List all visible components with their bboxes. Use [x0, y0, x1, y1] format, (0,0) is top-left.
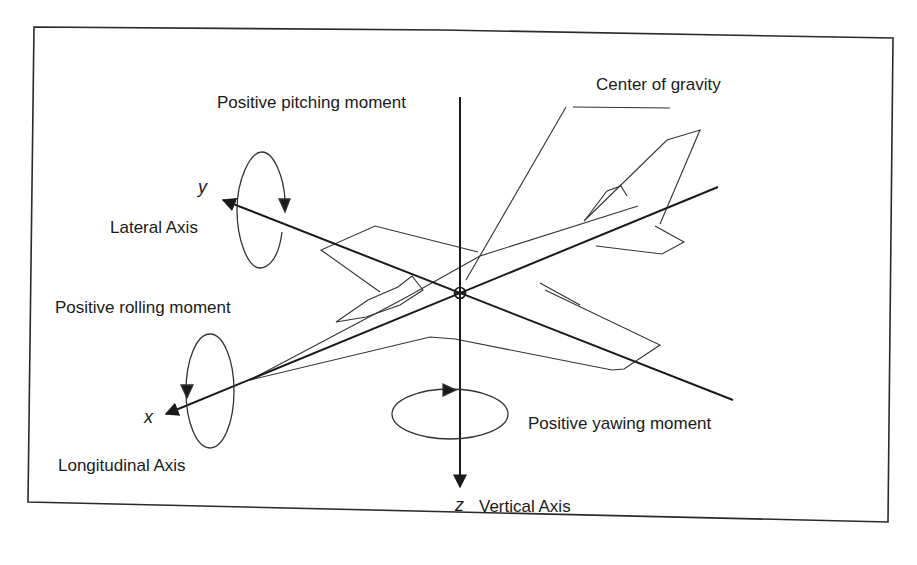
- aircraft-axes-diagram: [0, 0, 917, 565]
- yawing-moment-arrow: [392, 384, 508, 439]
- yawing-moment-label: Positive yawing moment: [528, 415, 711, 432]
- cg-leader: [466, 107, 670, 280]
- cg-symbol: [454, 287, 466, 299]
- pitching-moment-arrow: [237, 152, 290, 268]
- airplane-outline: [250, 130, 700, 380]
- rolling-moment-label: Positive rolling moment: [55, 299, 231, 316]
- longitudinal-axis-label: Longitudinal Axis: [58, 457, 186, 474]
- x-axis-label: x: [144, 408, 153, 426]
- z-axis-label: z: [455, 496, 464, 514]
- lateral-axis-label: Lateral Axis: [110, 219, 198, 236]
- center-of-gravity-label: Center of gravity: [596, 76, 721, 93]
- rolling-moment-arrow: [181, 334, 234, 448]
- pitching-moment-label: Positive pitching moment: [217, 94, 406, 111]
- vertical-axis-label: Vertical Axis: [479, 498, 571, 515]
- y-axis-label: y: [198, 178, 207, 196]
